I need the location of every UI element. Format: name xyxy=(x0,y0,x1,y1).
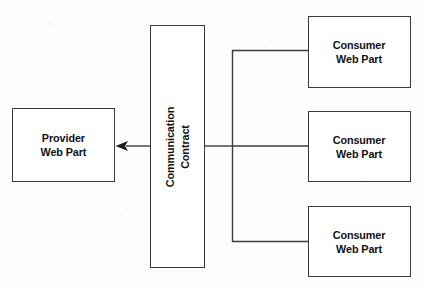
provider-web-part-node[interactable]: Provider Web Part xyxy=(12,108,115,182)
diagram-canvas: Provider Web Part Communication Contract… xyxy=(0,0,423,291)
consumer-web-part-node-2[interactable]: Consumer Web Part xyxy=(308,111,411,182)
consumer-web-part-node-3[interactable]: Consumer Web Part xyxy=(308,206,411,277)
consumer-web-part-node-1[interactable]: Consumer Web Part xyxy=(308,16,411,88)
communication-contract-node[interactable]: Communication Contract xyxy=(150,25,205,268)
consumer-web-part-label-3: Consumer Web Part xyxy=(333,228,386,256)
consumer-web-part-label-2: Consumer Web Part xyxy=(333,133,386,161)
provider-web-part-label: Provider Web Part xyxy=(41,131,87,159)
consumer-web-part-label-1: Consumer Web Part xyxy=(333,38,386,66)
communication-contract-label: Communication Contract xyxy=(163,106,193,186)
